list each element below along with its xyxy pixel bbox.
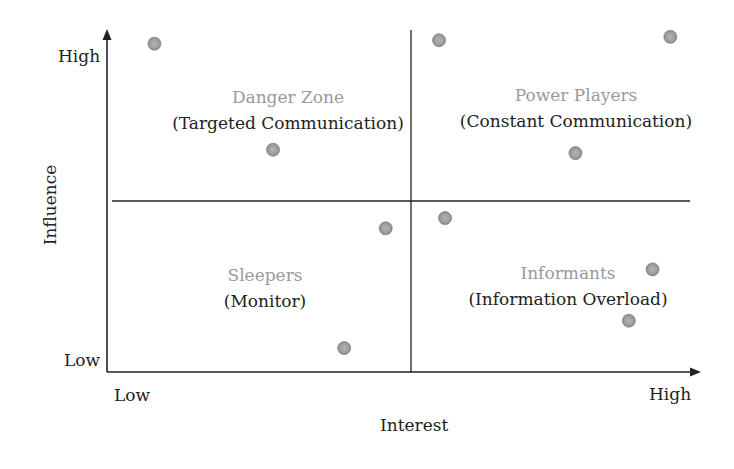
quadrant-subtitle: (Monitor) bbox=[224, 288, 307, 314]
x-tick-low: Low bbox=[114, 385, 150, 405]
data-point bbox=[338, 342, 351, 355]
data-point bbox=[439, 212, 452, 225]
data-point bbox=[267, 143, 280, 156]
quadrant-danger-zone: Danger Zone (Targeted Communication) bbox=[172, 84, 404, 136]
x-axis-title: Interest bbox=[380, 415, 448, 435]
quadrant-subtitle: (Information Overload) bbox=[468, 286, 667, 312]
y-axis-title: Influence bbox=[40, 165, 60, 246]
data-point bbox=[148, 37, 161, 50]
x-axis-arrow-icon bbox=[690, 368, 701, 377]
y-axis-arrow-icon bbox=[103, 29, 112, 40]
data-point bbox=[379, 222, 392, 235]
y-tick-high: High bbox=[58, 46, 100, 66]
quadrant-title: Power Players bbox=[460, 82, 692, 108]
quadrant-title: Sleepers bbox=[224, 262, 307, 288]
quadrant-title: Informants bbox=[468, 260, 667, 286]
quadrant-subtitle: (Constant Communication) bbox=[460, 108, 692, 134]
data-point bbox=[433, 34, 446, 47]
data-point bbox=[664, 30, 677, 43]
quadrant-power-players: Power Players (Constant Communication) bbox=[460, 82, 692, 134]
data-point bbox=[569, 147, 582, 160]
data-point bbox=[622, 314, 635, 327]
quadrant-title: Danger Zone bbox=[172, 84, 404, 110]
x-tick-high: High bbox=[649, 384, 691, 404]
y-tick-low: Low bbox=[64, 350, 100, 370]
chart-canvas bbox=[0, 0, 734, 469]
quadrant-sleepers: Sleepers (Monitor) bbox=[224, 262, 307, 314]
quadrant-subtitle: (Targeted Communication) bbox=[172, 110, 404, 136]
quadrant-informants: Informants (Information Overload) bbox=[468, 260, 667, 312]
